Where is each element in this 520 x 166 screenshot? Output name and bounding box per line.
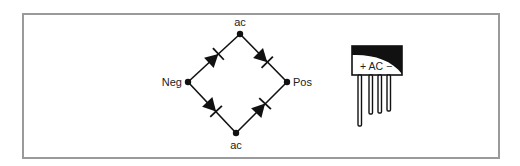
- package-marking: + AC −: [360, 60, 392, 72]
- label-top-ac: ac: [234, 16, 246, 28]
- label-bottom-ac: ac: [230, 139, 242, 151]
- bridge-rectifier-diagram: ac ac Neg Pos + AC −: [0, 0, 520, 166]
- label-pos: Pos: [293, 76, 312, 88]
- bridge-wires: [188, 34, 287, 133]
- node-left: [185, 79, 191, 85]
- node-right: [284, 79, 290, 85]
- bridge-package-icon: + AC −: [352, 46, 402, 126]
- node-bottom: [233, 130, 239, 136]
- label-neg: Neg: [162, 76, 182, 88]
- node-top: [237, 31, 243, 37]
